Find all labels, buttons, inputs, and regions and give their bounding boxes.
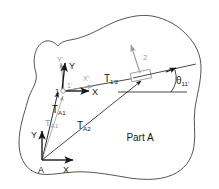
part-outline bbox=[19, 15, 201, 179]
vector-T-1prime-2-label: T1'2 bbox=[104, 73, 119, 85]
frame-1-origin-prime-label: 1' bbox=[67, 82, 72, 89]
part-a-caption: Part A bbox=[126, 132, 154, 143]
frame-a: Y X A bbox=[31, 130, 73, 175]
feature-2-slot bbox=[130, 69, 151, 81]
frame-1-origin-marker bbox=[61, 89, 66, 94]
frame-1-y-label: Y bbox=[69, 61, 75, 71]
vector-T-A1-label: TA1 bbox=[52, 104, 66, 116]
frame-a-y-label: Y bbox=[31, 130, 37, 140]
vector-T-A1-prime-label: TA1' bbox=[45, 118, 59, 129]
feature-2-label: 2 bbox=[143, 53, 148, 62]
vector-T-A2-label: TA2 bbox=[77, 120, 91, 132]
feature-2-normal-arrow bbox=[131, 45, 140, 73]
frame-1: Y' X' Y X 1 1' bbox=[55, 56, 98, 98]
frame-1-x-label: X bbox=[92, 87, 98, 97]
vector-T-1prime-2: T1'2 bbox=[64, 73, 141, 91]
diagram-canvas: TA2 TA1 TA1' T1'2 Y' bbox=[0, 0, 219, 189]
frame-1-y-prime-label: Y' bbox=[57, 56, 63, 63]
frame-a-origin-label: A bbox=[38, 165, 44, 175]
frame-1-x-prime-label: X' bbox=[83, 75, 89, 82]
angle-theta-11prime-label: θ11' bbox=[176, 75, 189, 87]
frame-1-origin-label: 1 bbox=[55, 87, 60, 96]
angle-theta-11prime: θ11' bbox=[118, 64, 196, 92]
frame-a-x-label: X bbox=[63, 165, 69, 175]
part-a-diagram: TA2 TA1 TA1' T1'2 Y' bbox=[0, 0, 219, 189]
